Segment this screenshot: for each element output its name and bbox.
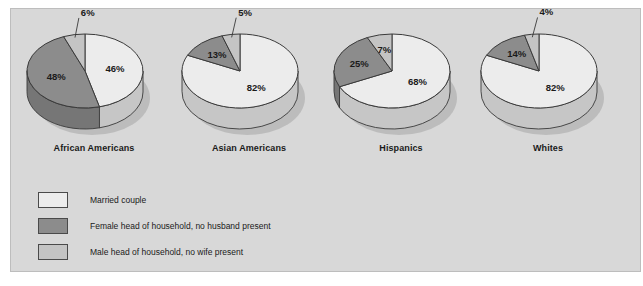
pie-chart-african-americans: 46%48%6% African Americans — [19, 9, 169, 159]
pie-svg-2: 68%25%7% — [326, 9, 476, 159]
legend-item-married-couple: Married couple — [38, 187, 458, 213]
slice-label: 4% — [540, 9, 554, 17]
pie-caption-2: Hispanics — [326, 143, 476, 153]
legend-swatch-female-head — [38, 218, 68, 234]
legend-item-male-head: Male head of household, no wife present — [38, 239, 458, 265]
pie-chart-hispanics: 68%25%7% Hispanics — [326, 9, 476, 159]
legend-label-married-couple: Married couple — [90, 195, 146, 205]
slice-label: 13% — [207, 49, 227, 60]
pie-svg-3: 82%14%4% — [473, 9, 623, 159]
pie-caption-3: Whites — [473, 143, 623, 153]
pie-chart-whites: 82%14%4% Whites — [473, 9, 623, 159]
slice-label: 7% — [378, 44, 392, 55]
slice-label: 6% — [81, 9, 95, 18]
slice-label: 25% — [350, 58, 370, 69]
pie-chart-asian-americans: 82%13%5% Asian Americans — [174, 9, 324, 159]
pie-chart-row: 46%48%6% African Americans 82%13%5% Asia… — [11, 9, 642, 159]
pie-caption-1: Asian Americans — [174, 143, 324, 153]
chart-panel: 46%48%6% African Americans 82%13%5% Asia… — [10, 8, 641, 272]
slice-label: 46% — [105, 63, 125, 74]
slice-label: 68% — [408, 76, 428, 87]
slice-label: 82% — [247, 82, 267, 93]
pie-svg-0: 46%48%6% — [19, 9, 169, 159]
chart-legend: Married couple Female head of household,… — [38, 187, 458, 265]
slice-label: 82% — [546, 82, 566, 93]
pie-svg-1: 82%13%5% — [174, 9, 324, 159]
slice-label: 5% — [238, 9, 252, 18]
legend-item-female-head: Female head of household, no husband pre… — [38, 213, 458, 239]
legend-label-female-head: Female head of household, no husband pre… — [90, 221, 271, 231]
slice-label: 14% — [507, 48, 527, 59]
legend-label-male-head: Male head of household, no wife present — [90, 247, 243, 257]
legend-swatch-male-head — [38, 244, 68, 260]
legend-swatch-married-couple — [38, 192, 68, 208]
pie-caption-0: African Americans — [19, 143, 169, 153]
slice-label: 48% — [47, 71, 67, 82]
